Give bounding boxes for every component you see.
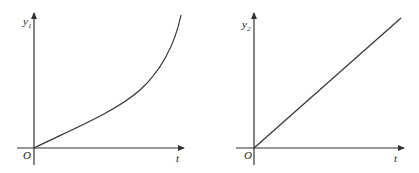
left-origin-label: O xyxy=(23,149,31,161)
left-graph: y1 O t xyxy=(17,13,184,165)
right-origin-label: O xyxy=(244,149,252,161)
diagram-canvas: y1 O t y2 O t xyxy=(0,0,419,173)
right-graph: y2 O t xyxy=(236,13,404,165)
left-y-label: y1 xyxy=(22,15,31,30)
right-line-y2 xyxy=(254,18,401,148)
left-curve-y1 xyxy=(34,15,181,148)
right-x-label: t xyxy=(394,152,398,164)
left-x-label: t xyxy=(176,152,180,164)
right-y-label: y2 xyxy=(241,18,251,33)
